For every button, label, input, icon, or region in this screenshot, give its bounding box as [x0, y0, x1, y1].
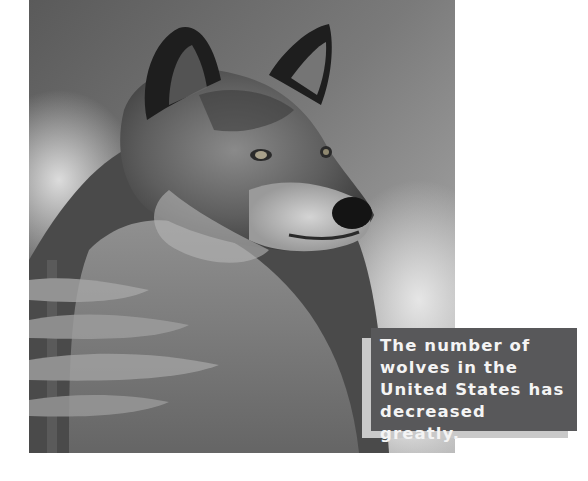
- caption-box: The number of wolves in the United State…: [371, 328, 577, 431]
- caption-text: The number of wolves in the United State…: [380, 335, 569, 445]
